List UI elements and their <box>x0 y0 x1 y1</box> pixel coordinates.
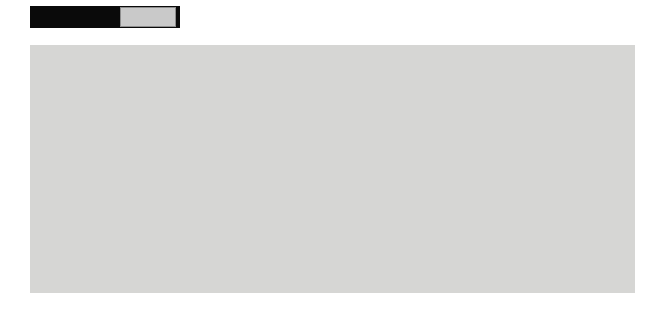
debt-to-gdp-area-chart <box>30 45 635 293</box>
figure-number-box <box>120 7 176 27</box>
figure-header <box>30 6 635 36</box>
chart-panel <box>30 45 635 293</box>
